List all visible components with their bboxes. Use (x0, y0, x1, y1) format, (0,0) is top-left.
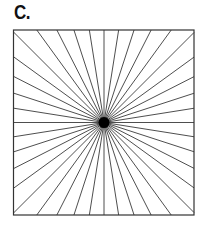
ray-line (104, 30, 134, 123)
radial-line-diagram (0, 0, 206, 225)
ray-line (74, 30, 104, 123)
ray-line (37, 123, 104, 216)
ray-line (37, 30, 104, 123)
ray-line (14, 57, 105, 123)
ray-line (14, 123, 105, 189)
ray-line (104, 123, 171, 216)
ray-line (104, 93, 194, 122)
ray-line (74, 123, 104, 216)
ray-line (14, 123, 105, 214)
ray-line (14, 93, 105, 122)
ray-line (104, 123, 194, 188)
ray-line (14, 32, 105, 123)
ray-line (14, 123, 105, 152)
ray-line (104, 30, 171, 123)
ray-line (104, 57, 194, 122)
center-point (99, 117, 110, 128)
ray-line (104, 123, 194, 152)
ray-line (104, 123, 134, 216)
ray-line (104, 123, 194, 213)
ray-line (104, 33, 194, 123)
